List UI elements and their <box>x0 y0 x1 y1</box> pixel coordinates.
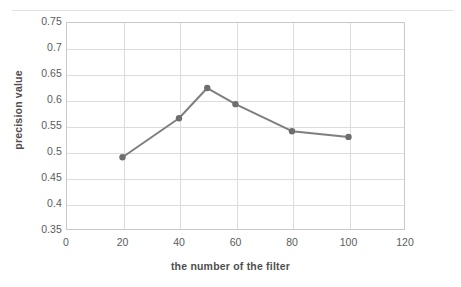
x-axis-tick-labels: 020406080100120 <box>0 236 461 252</box>
data-series-layer <box>66 22 405 230</box>
y-axis-tick-label: 0.55 <box>28 120 62 131</box>
data-point-marker <box>289 128 295 134</box>
x-axis-tick-label: 20 <box>103 236 143 248</box>
x-axis-tick-label: 100 <box>329 236 369 248</box>
x-axis-tick-label: 40 <box>159 236 199 248</box>
y-axis-tick-label: 0.4 <box>28 198 62 209</box>
x-axis-tick-label: 0 <box>46 236 86 248</box>
y-axis-tick-label: 0.35 <box>28 224 62 235</box>
data-point-marker <box>232 101 238 107</box>
series-line-precision-value <box>123 88 349 157</box>
x-axis-tick-label: 80 <box>272 236 312 248</box>
data-point-marker <box>176 115 182 121</box>
x-axis-tick-label: 120 <box>385 236 425 248</box>
data-point-marker <box>119 154 125 160</box>
series-markers-precision-value <box>119 85 351 161</box>
x-axis-title: the number of the filter <box>0 260 461 272</box>
data-point-marker <box>204 85 210 91</box>
y-axis-tick-label: 0.6 <box>28 94 62 105</box>
y-axis-title: precision value <box>12 60 24 160</box>
y-axis-tick-label: 0.65 <box>28 68 62 79</box>
y-axis-tick-label: 0.75 <box>28 16 62 27</box>
x-axis-tick-label: 60 <box>216 236 256 248</box>
y-axis-tick-label: 0.7 <box>28 42 62 53</box>
data-point-marker <box>345 134 351 140</box>
y-axis-tick-label: 0.45 <box>28 172 62 183</box>
line-chart-figure: 0.350.40.450.50.550.60.650.70.75 0204060… <box>0 0 461 287</box>
y-axis-tick-label: 0.5 <box>28 146 62 157</box>
